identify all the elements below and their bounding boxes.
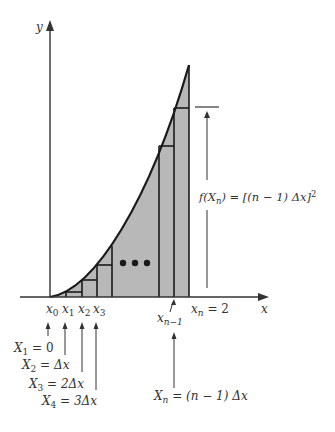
sample-point-label: X2 = Δx <box>21 358 70 374</box>
sample-point-label: X1 = 0 <box>13 341 54 357</box>
svg-text:x0: x0 <box>46 302 59 318</box>
sample-point-labels: X1 = 0 X2 = Δx X3 = 2Δx X4 = 3Δx Xn = (n… <box>13 341 248 410</box>
x-axis-label: x <box>261 302 268 316</box>
xn-minus-1-label: xn−1 <box>157 311 183 327</box>
sample-point-label: X4 = 3Δx <box>41 394 97 410</box>
xn-minus-1-pointer-arrow-icon <box>171 299 176 305</box>
xn-end-label: xn = 2 <box>191 302 229 318</box>
svg-text:x1: x1 <box>62 302 75 318</box>
x-axis-arrow-icon <box>258 293 269 301</box>
y-axis-label: y <box>35 20 43 34</box>
svg-text:x3: x3 <box>93 302 106 318</box>
svg-text:x2: x2 <box>78 302 91 318</box>
sample-point-label: X3 = 2Δx <box>28 377 84 393</box>
shaded-area <box>50 65 189 297</box>
partition-labels: x0 x1 x2 x3 <box>46 302 106 318</box>
height-annotation: f(Xn) = [(n − 1) Δx]2 <box>198 189 316 206</box>
height-arrow-up-icon <box>204 111 210 118</box>
ellipsis-dots <box>120 260 150 266</box>
y-axis-arrow-icon <box>46 20 54 31</box>
sample-point-label: Xn = (n − 1) Δx <box>153 389 248 405</box>
riemann-sum-diagram: y x x0 x1 x2 x3 xn−1 xn = 2 f(Xn) = [(n … <box>0 0 335 432</box>
